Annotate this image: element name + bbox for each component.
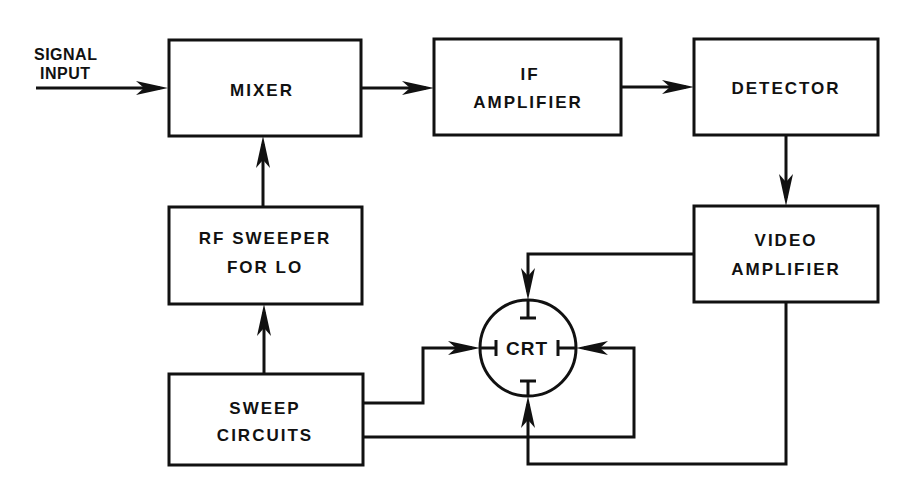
spectrum-analyzer-block-diagram: SIGNAL INPUT MIXER IF AMPLIFIER DETECTOR [0,0,912,489]
signal-input-label: SIGNAL INPUT [34,46,97,82]
rf-sweeper-to-mixer-arrow [256,136,270,207]
crt-symbol[interactable]: CRT [480,300,576,396]
svg-text:SWEEP: SWEEP [229,399,300,418]
if-amplifier-block[interactable]: IF AMPLIFIER [434,39,621,135]
svg-text:AMPLIFIER: AMPLIFIER [731,260,841,279]
svg-text:DETECTOR: DETECTOR [731,79,840,98]
sweep-circuits-block[interactable]: SWEEP CIRCUITS [169,374,363,465]
if-to-detector-arrow [621,80,694,94]
mixer-to-if-arrow [361,81,434,95]
sweep-to-rf-sweeper-arrow [257,304,271,374]
sweep-to-crt-left-arrow [363,341,480,403]
svg-text:CIRCUITS: CIRCUITS [217,426,313,445]
svg-text:RF SWEEPER: RF SWEEPER [199,229,331,248]
svg-text:INPUT: INPUT [40,65,91,82]
signal-input-arrow [36,81,168,95]
svg-text:VIDEO: VIDEO [755,231,818,250]
svg-text:MIXER: MIXER [230,81,294,100]
svg-text:FOR LO: FOR LO [227,258,303,277]
rf-sweeper-block[interactable]: RF SWEEPER FOR LO [169,207,362,304]
sweep-to-crt-right-arrow [363,341,634,437]
svg-text:IF: IF [520,65,539,84]
svg-text:SIGNAL: SIGNAL [34,46,97,63]
video-amplifier-block[interactable]: VIDEO AMPLIFIER [694,206,878,302]
mixer-block[interactable]: MIXER [169,40,361,136]
detector-to-video-amp-arrow [779,135,793,206]
svg-text:AMPLIFIER: AMPLIFIER [473,93,583,112]
detector-block[interactable]: DETECTOR [694,39,878,135]
svg-text:CRT: CRT [506,338,548,359]
video-to-crt-top-arrow [521,254,694,300]
